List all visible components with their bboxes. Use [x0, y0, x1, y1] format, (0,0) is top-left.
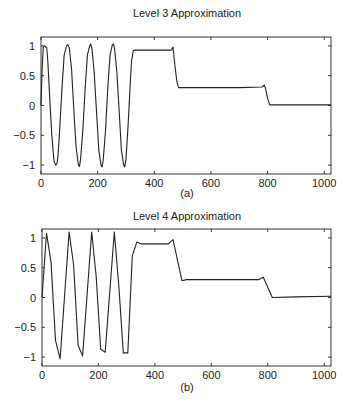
- y-tick-label: −1: [22, 159, 35, 171]
- y-tick-label: 0: [30, 292, 36, 304]
- x-tick-label: 1000: [312, 369, 336, 381]
- figure: Level 3 Approximation 020040060080010001…: [0, 0, 354, 406]
- data-line: [42, 232, 331, 359]
- x-tick-label: 0: [39, 369, 45, 381]
- figure-caption: (b): [180, 381, 193, 393]
- y-tick-label: 0.5: [20, 70, 35, 82]
- x-tick-label: 200: [88, 177, 106, 189]
- chart-title: Level 3 Approximation: [133, 7, 241, 19]
- y-tick-label: 0.5: [21, 262, 36, 274]
- x-tick-label: 800: [258, 177, 276, 189]
- y-tick-label: 0: [29, 100, 35, 112]
- y-tick-label: −1: [23, 351, 36, 363]
- chart-level4: Level 4 Approximation 020040060080010001…: [14, 210, 336, 393]
- x-tick-label: 600: [202, 369, 220, 381]
- x-tick-label: 1000: [312, 177, 336, 189]
- y-tick-label: 1: [30, 232, 36, 244]
- y-tick-label: 1: [29, 40, 35, 52]
- y-tick-label: −0.5: [13, 129, 35, 141]
- x-tick-label: 600: [202, 177, 220, 189]
- chart-level3: Level 3 Approximation 020040060080010001…: [13, 7, 336, 199]
- data-line: [41, 44, 331, 167]
- x-tick-label: 800: [259, 369, 277, 381]
- x-tick-label: 400: [146, 369, 164, 381]
- chart-title: Level 4 Approximation: [133, 210, 241, 222]
- x-tick-label: 400: [145, 177, 163, 189]
- x-tick-label: 200: [89, 369, 107, 381]
- figure-caption: (a): [180, 187, 193, 199]
- x-tick-label: 0: [38, 177, 44, 189]
- axis-ticks: 0200400600800100010.50−0.5−1: [13, 37, 336, 189]
- y-tick-label: −0.5: [14, 321, 36, 333]
